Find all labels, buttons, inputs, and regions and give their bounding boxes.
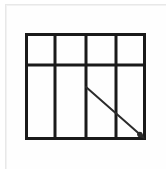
arrow-shaft <box>86 87 140 134</box>
screenshot-canvas <box>0 0 168 170</box>
panel-grid-diagram <box>0 0 168 170</box>
arrow-head-tip-blob <box>137 132 142 137</box>
